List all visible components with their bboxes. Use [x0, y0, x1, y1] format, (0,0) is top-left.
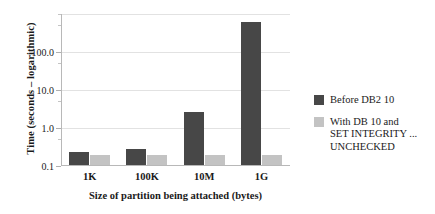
- y-axis-tick: [56, 166, 61, 167]
- legend-label: Before DB2 10: [330, 94, 394, 107]
- y-axis-minor-tick: [58, 14, 61, 15]
- y-axis-tick-label: 1.0: [42, 123, 55, 134]
- chart-legend: Before DB2 10With DB 10 and SET INTEGRIT…: [314, 94, 434, 162]
- bar: [184, 112, 204, 165]
- y-axis-title: Time (seconds – logarithmic): [25, 11, 36, 166]
- y-axis-minor-tick: [58, 139, 61, 140]
- bar-group: [69, 14, 110, 165]
- bar: [262, 155, 282, 165]
- legend-entry: Before DB2 10: [314, 94, 434, 107]
- plot-area: 0.11.010.0100.0 1K100K10M1G: [61, 14, 290, 166]
- x-axis-tick-label: 100K: [135, 171, 159, 182]
- x-axis-title: Size of partition being attached (bytes): [61, 190, 290, 201]
- bar: [69, 152, 89, 165]
- x-axis-line: [61, 165, 290, 166]
- x-axis-tick-label: 10M: [194, 171, 214, 182]
- y-axis-tick-label: 100.0: [32, 47, 55, 58]
- bar-chart-figure: Time (seconds – logarithmic) 0.11.010.01…: [0, 0, 435, 214]
- legend-swatch: [314, 117, 324, 127]
- bar-group: [126, 14, 167, 165]
- legend-swatch: [314, 95, 324, 105]
- legend-entry: With DB 10 and SET INTEGRITY ... UNCHECK…: [314, 116, 434, 154]
- y-axis-tick-label: 0.1: [42, 161, 55, 172]
- bar-group: [241, 14, 282, 165]
- y-axis-minor-tick: [58, 25, 61, 26]
- x-axis-tick-label: 1K: [83, 171, 96, 182]
- y-axis-tick: [56, 90, 61, 91]
- legend-label: With DB 10 and SET INTEGRITY ... UNCHECK…: [330, 116, 417, 154]
- y-axis-minor-tick: [58, 101, 61, 102]
- x-axis-tick-label: 1G: [255, 171, 268, 182]
- y-axis-tick: [56, 52, 61, 53]
- bar: [205, 155, 225, 165]
- y-axis-tick: [56, 128, 61, 129]
- bar: [241, 22, 261, 165]
- y-axis-tick-label: 10.0: [37, 85, 55, 96]
- y-axis-minor-tick: [58, 63, 61, 64]
- bar: [90, 155, 110, 165]
- bar: [147, 155, 167, 165]
- bar-group: [184, 14, 225, 165]
- bar: [126, 149, 146, 165]
